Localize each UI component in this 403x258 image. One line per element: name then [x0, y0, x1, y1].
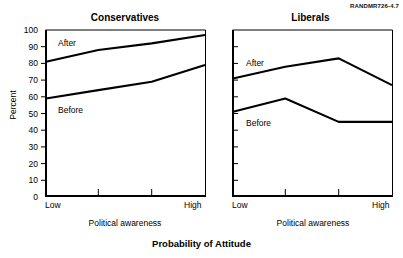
series-label-before-liberals: Before — [246, 118, 271, 128]
y-tick-label: 50 — [18, 110, 38, 118]
panel-title-conservatives: Conservatives — [45, 12, 205, 23]
figure-container: RANDMR726-4.7 Conservatives Liberals Per… — [0, 0, 403, 258]
x-axis-title-right: Political awareness — [232, 218, 394, 228]
source-code-label: RANDMR726-4.7 — [350, 3, 399, 9]
y-tick-label: 10 — [18, 176, 38, 184]
x-axis-low-label-left: Low — [45, 200, 61, 210]
figure-caption: Probability of Attitude — [0, 238, 403, 249]
y-tick-label: 100 — [18, 26, 38, 34]
series-label-after-liberals: After — [246, 58, 264, 68]
y-tick-label: 0 — [18, 193, 38, 201]
y-tick-label: 40 — [18, 126, 38, 134]
x-axis-high-label-left: High — [184, 200, 201, 210]
x-axis-title-left: Political awareness — [45, 218, 205, 228]
x-axis-high-label-right: High — [372, 200, 389, 210]
series-label-after-conservatives: After — [58, 38, 76, 48]
plot-area-liberals — [232, 30, 393, 198]
y-tick-label: 90 — [18, 43, 38, 51]
x-tick-marks — [98, 189, 151, 196]
y-axis-title: Percent — [8, 75, 18, 135]
y-tick-label: 60 — [18, 93, 38, 101]
series-label-before-conservatives: Before — [58, 105, 83, 115]
panel-title-liberals: Liberals — [228, 12, 393, 23]
x-tick-marks — [285, 189, 338, 196]
y-tick-label: 80 — [18, 59, 38, 67]
series-line-before — [46, 65, 205, 98]
y-tick-label: 20 — [18, 160, 38, 168]
y-tick-label: 70 — [18, 76, 38, 84]
y-tick-label: 30 — [18, 143, 38, 151]
x-axis-low-label-right: Low — [232, 200, 248, 210]
